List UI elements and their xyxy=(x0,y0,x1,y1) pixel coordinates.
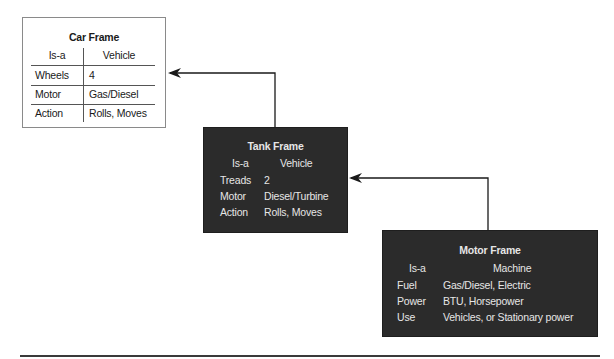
motor-frame-title: Motor Frame xyxy=(383,244,597,256)
tank-row-key: Treads xyxy=(220,174,251,186)
car-frame-divider xyxy=(31,85,155,86)
motor-row-key: Use xyxy=(397,311,415,323)
car-row-key: Action xyxy=(35,107,63,119)
motor-row-key: Fuel xyxy=(397,279,417,291)
car-row-key: Motor xyxy=(35,88,61,100)
arrow-tank-to-car xyxy=(168,68,275,127)
tank-isa-label: Is-a xyxy=(232,157,249,169)
tank-frame-title: Tank Frame xyxy=(204,140,347,152)
bottom-rule xyxy=(20,355,600,357)
car-row-value: Rolls, Moves xyxy=(89,107,147,119)
motor-row-value: BTU, Horsepower xyxy=(443,295,523,307)
car-frame-title: Car Frame xyxy=(23,31,165,43)
tank-row-key: Action xyxy=(220,206,248,218)
tank-row-value: Rolls, Moves xyxy=(264,206,322,218)
car-frame-row: Motor Gas/Diesel xyxy=(31,88,155,104)
car-frame-row: Wheels 4 xyxy=(31,69,155,85)
tank-row-key: Motor xyxy=(220,190,246,202)
arrow-motor-to-tank xyxy=(349,173,488,230)
car-frame-divider xyxy=(31,104,155,105)
tank-frame: Tank Frame Is-a Vehicle Treads 2 Motor D… xyxy=(203,127,348,233)
tank-row-value: 2 xyxy=(264,174,270,186)
car-isa-value: Vehicle xyxy=(83,49,155,61)
motor-row-key: Power xyxy=(397,295,426,307)
tank-row-value: Diesel/Turbine xyxy=(264,190,329,202)
car-row-key: Wheels xyxy=(35,69,69,81)
car-row-value: Gas/Diesel xyxy=(89,88,138,100)
motor-row-value: Vehicles, or Stationary power xyxy=(443,311,573,323)
motor-isa-label: Is-a xyxy=(409,262,426,274)
tank-isa-value: Vehicle xyxy=(280,157,312,169)
car-frame-isa-row: Is-a Vehicle xyxy=(31,49,155,65)
motor-isa-value: Machine xyxy=(493,262,531,274)
car-isa-label: Is-a xyxy=(31,49,83,61)
car-frame: Car Frame Is-a Vehicle Wheels 4 Motor Ga… xyxy=(22,17,166,128)
car-frame-divider xyxy=(31,65,155,66)
car-row-value: 4 xyxy=(89,69,95,81)
car-frame-row: Action Rolls, Moves xyxy=(31,107,155,123)
motor-frame: Motor Frame Is-a Machine Fuel Gas/Diesel… xyxy=(382,230,598,337)
motor-row-value: Gas/Diesel, Electric xyxy=(443,279,531,291)
